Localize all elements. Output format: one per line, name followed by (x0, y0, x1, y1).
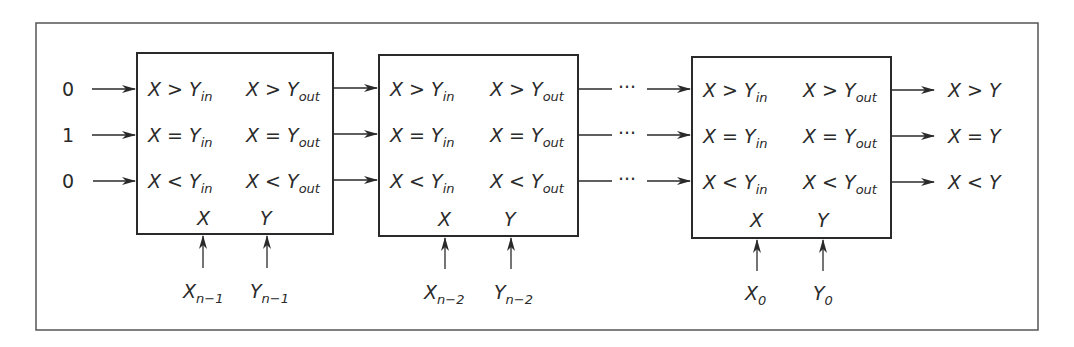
svg-text:Xn−1: Xn−1 (182, 280, 223, 306)
svg-text:Yn−1: Yn−1 (250, 280, 289, 306)
final-output-lt: X < Y (947, 171, 1002, 193)
port-x: X (749, 209, 764, 231)
svg-text:X = Yin: X = Yin (702, 125, 767, 151)
svg-text:X = Yin: X = Yin (389, 124, 454, 150)
comparator-stage-2: X > Yin X = Yin X < Yin X > Yout X = You… (379, 55, 578, 307)
final-outputs: X > Y X = Y X < Y (891, 79, 1002, 193)
stage2-to-stage3-wires: ··· ··· ··· (578, 76, 690, 190)
port-x: X (196, 207, 211, 229)
svg-text:X < Yin: X < Yin (147, 170, 212, 196)
svg-text:Yn−2: Yn−2 (494, 281, 533, 307)
svg-text:X < Yout: X < Yout (245, 170, 321, 196)
ellipsis: ··· (618, 122, 636, 144)
svg-text:X = Yout: X = Yout (489, 124, 565, 150)
svg-text:X = Yout: X = Yout (245, 124, 321, 150)
svg-text:X > Yout: X > Yout (245, 78, 321, 104)
ellipsis: ··· (618, 76, 636, 98)
ellipsis: ··· (618, 168, 636, 190)
svg-text:Xn−2: Xn−2 (423, 281, 464, 307)
port-y: Y (504, 208, 517, 230)
port-y: Y (817, 209, 830, 231)
port-x: X (437, 208, 452, 230)
initial-inputs: 0 1 0 (62, 78, 135, 192)
svg-text:X < Yout: X < Yout (489, 170, 565, 196)
initial-input-eq: 1 (62, 124, 74, 146)
comparator-stage-3: X > Yin X = Yin X < Yin X > Yout X = You… (692, 57, 891, 308)
svg-text:X > Yin: X > Yin (389, 78, 454, 104)
final-output-eq: X = Y (947, 125, 1002, 147)
svg-text:X > Yin: X > Yin (702, 79, 767, 105)
comparator-diagram: 0 1 0 X > Yin X = Yin X < Yin X > Yout X… (0, 0, 1074, 347)
svg-text:X < Yout: X < Yout (802, 171, 878, 197)
svg-text:X > Yout: X > Yout (802, 79, 878, 105)
svg-text:X > Yout: X > Yout (489, 78, 565, 104)
svg-text:X < Yin: X < Yin (389, 170, 454, 196)
svg-text:X0: X0 (744, 282, 766, 308)
svg-text:X < Yin: X < Yin (702, 171, 767, 197)
svg-text:X = Yin: X = Yin (147, 124, 212, 150)
svg-text:X > Yin: X > Yin (147, 78, 212, 104)
initial-input-gt: 0 (62, 78, 74, 100)
comparator-stage-1: X > Yin X = Yin X < Yin X > Yout X = You… (137, 53, 333, 306)
port-y: Y (260, 207, 273, 229)
svg-text:Y0: Y0 (813, 282, 833, 308)
stage1-to-stage2-wires (333, 88, 377, 180)
svg-text:X = Yout: X = Yout (802, 125, 878, 151)
initial-input-lt: 0 (62, 170, 74, 192)
final-output-gt: X > Y (947, 79, 1002, 101)
